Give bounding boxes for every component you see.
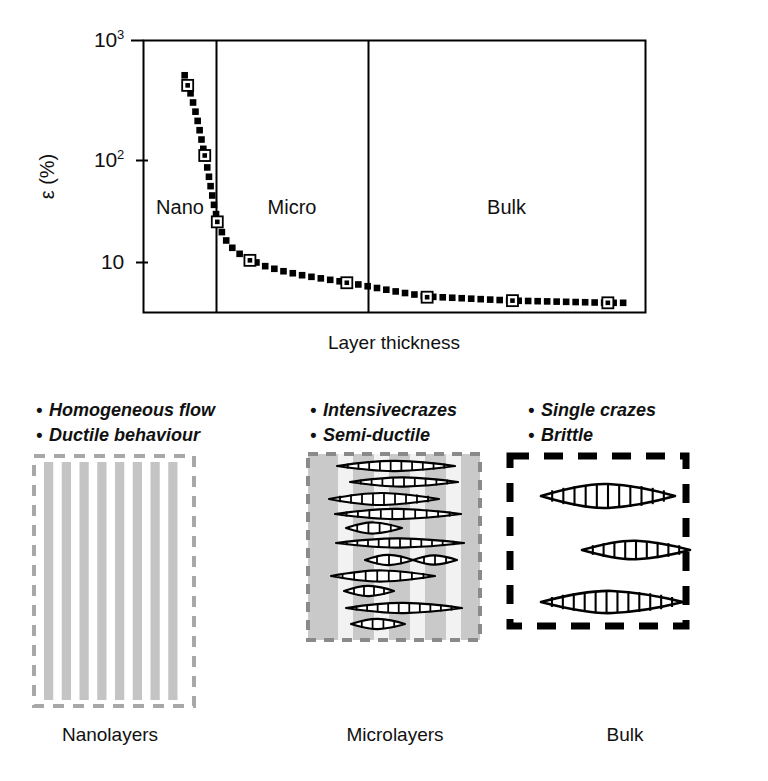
- data-point-center-dot: [425, 295, 430, 300]
- bullet-text: Ductile behaviour: [49, 425, 200, 445]
- figure-root: 103 102 10 ε (%) Layer thickness Nano Mi…: [0, 0, 768, 781]
- curve-dot: [525, 298, 532, 305]
- region-label-micro: Micro: [216, 196, 368, 219]
- curve-dot: [582, 299, 589, 306]
- curve-dot: [563, 299, 570, 306]
- bullet-dot-icon: •: [310, 398, 323, 423]
- nanolayer-stripe: [44, 462, 53, 700]
- region-label-nano: Nano: [143, 196, 217, 219]
- curve-dot: [468, 295, 475, 302]
- nanolayer-stripe: [80, 462, 89, 700]
- curve-dot: [477, 296, 484, 303]
- plot-frame: [144, 41, 646, 313]
- panel-nanolayers-art: [28, 450, 208, 712]
- curve-dot: [449, 294, 456, 301]
- bullet-item: •Homogeneous flow: [36, 398, 215, 423]
- curve-dot: [219, 229, 226, 236]
- nanolayer-stripe: [151, 462, 160, 700]
- curve-dot: [553, 298, 560, 305]
- panel-microlayers-bullets: •Intensivecrazes •Semi-ductile: [310, 398, 457, 448]
- data-point-center-dot: [345, 280, 350, 285]
- curve-dot: [196, 127, 203, 134]
- curve-dot: [198, 136, 205, 143]
- curve-dot: [439, 294, 446, 301]
- nanolayer-stripe: [133, 462, 142, 700]
- curve-dot: [280, 268, 287, 275]
- chart-panel: 103 102 10 ε (%) Layer thickness Nano Mi…: [0, 0, 768, 390]
- bullet-item: •Brittle: [528, 423, 656, 448]
- curve-dot: [327, 277, 334, 284]
- curve-dot: [458, 295, 465, 302]
- curve-dot: [262, 263, 269, 270]
- curve-dot: [496, 297, 503, 304]
- bullet-text: Intensivecrazes: [323, 400, 457, 420]
- nanolayer-stripe: [115, 462, 124, 700]
- nanolayers-stripes: [44, 462, 177, 700]
- panel-caption-microlayers: Microlayers: [300, 724, 490, 746]
- curve-dot: [229, 245, 236, 252]
- y-axis-tick-label-10: 10: [24, 250, 124, 274]
- curve-dot: [402, 290, 409, 297]
- curve-dot: [364, 283, 371, 290]
- panel-microlayers-art: [300, 450, 500, 650]
- curve-dot: [487, 296, 494, 303]
- bullet-text: Single crazes: [541, 400, 656, 420]
- bulk-crazes: [541, 484, 690, 613]
- curve-dot: [534, 298, 541, 305]
- curve-dot: [318, 275, 325, 282]
- data-point-center-dot: [248, 258, 253, 263]
- data-point-markers: [182, 80, 613, 308]
- bullet-dot-icon: •: [36, 423, 49, 448]
- bullet-item: •Semi-ductile: [310, 423, 457, 448]
- bullet-item: •Single crazes: [528, 398, 656, 423]
- y-axis-title: ε (%): [36, 117, 59, 237]
- bullet-dot-icon: •: [310, 423, 323, 448]
- data-curve-dotted: [181, 72, 626, 306]
- x-axis-title: Layer thickness: [143, 332, 645, 354]
- bullet-item: •Intensivecrazes: [310, 398, 457, 423]
- data-point-center-dot: [215, 220, 220, 225]
- curve-dot: [204, 164, 211, 171]
- panel-caption-bulk: Bulk: [560, 724, 690, 746]
- curve-dot: [308, 274, 315, 281]
- bullet-text: Semi-ductile: [323, 425, 430, 445]
- curve-dot: [289, 270, 296, 277]
- curve-dot: [207, 183, 214, 190]
- bullet-item: •Ductile behaviour: [36, 423, 215, 448]
- data-point-center-dot: [202, 153, 207, 158]
- curve-dot: [620, 300, 627, 307]
- region-label-bulk: Bulk: [368, 196, 645, 219]
- curve-dot: [192, 108, 199, 115]
- panel-bulk-bullets: •Single crazes •Brittle: [528, 398, 656, 448]
- data-point-center-dot: [185, 83, 190, 88]
- curve-dot: [223, 237, 230, 244]
- bullet-dot-icon: •: [528, 398, 541, 423]
- curve-dot: [383, 286, 390, 293]
- curve-dot: [236, 251, 243, 258]
- curve-dot: [271, 265, 278, 272]
- curve-dot: [572, 299, 579, 306]
- panel-caption-nanolayers: Nanolayers: [20, 724, 200, 746]
- data-point-center-dot: [606, 301, 611, 306]
- panel-nanolayers-bullets: •Homogeneous flow •Ductile behaviour: [36, 398, 215, 448]
- curve-dot: [206, 173, 213, 180]
- nanolayer-stripe: [97, 462, 106, 700]
- curve-dot: [392, 288, 399, 295]
- bullet-dot-icon: •: [528, 423, 541, 448]
- panel-bulk-art: [500, 450, 710, 640]
- curve-dot: [181, 72, 188, 79]
- curve-dot: [544, 298, 551, 305]
- bullet-text: Brittle: [541, 425, 593, 445]
- data-point-center-dot: [510, 298, 515, 303]
- curve-dot: [374, 285, 381, 292]
- curve-dot: [355, 281, 362, 288]
- curve-dot: [194, 118, 201, 125]
- curve-dot: [591, 299, 598, 306]
- bullet-text: Homogeneous flow: [49, 400, 215, 420]
- curve-dot: [299, 272, 306, 279]
- nanolayer-stripe: [168, 462, 177, 700]
- y-axis-tick-label-1000: 103: [24, 28, 124, 52]
- nanolayer-stripe: [62, 462, 71, 700]
- curve-dot: [411, 291, 418, 298]
- bullet-dot-icon: •: [36, 398, 49, 423]
